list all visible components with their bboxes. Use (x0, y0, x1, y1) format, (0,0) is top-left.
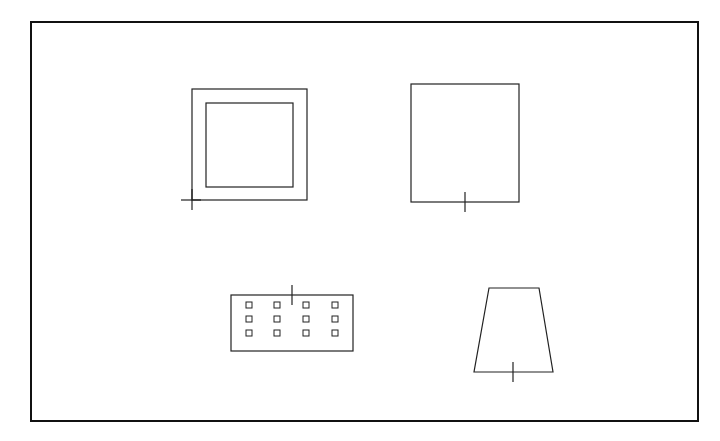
grid-cell (274, 330, 280, 336)
diagram-canvas (0, 0, 720, 441)
outer-square (192, 89, 307, 200)
grid-cell (246, 330, 252, 336)
inner-square (206, 103, 293, 187)
grid-cell (274, 316, 280, 322)
grid-cell (332, 330, 338, 336)
trapezoid (474, 288, 553, 382)
grid-cell (303, 330, 309, 336)
grid-cell (246, 316, 252, 322)
drawing-frame (31, 22, 698, 421)
grid-block (231, 285, 353, 351)
shapes-layer (181, 84, 553, 382)
grid-cell (303, 302, 309, 308)
rectangle (411, 84, 519, 212)
square-frame (181, 89, 307, 210)
frame-border (31, 22, 698, 421)
grid-cell (332, 316, 338, 322)
rectangle-outline (411, 84, 519, 202)
grid-cell (332, 302, 338, 308)
trapezoid-outline (474, 288, 553, 372)
grid-cell (303, 316, 309, 322)
grid-cell (274, 302, 280, 308)
grid-cell (246, 302, 252, 308)
